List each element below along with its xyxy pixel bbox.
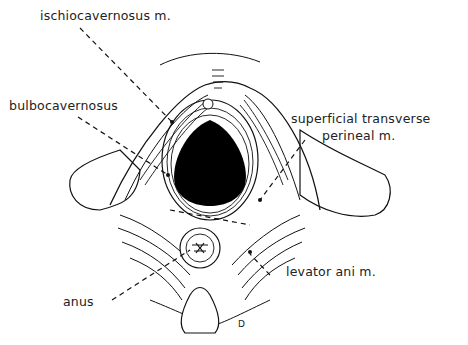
label-levator-ani: levator ani m.	[286, 265, 376, 278]
label-superficial-transverse: superficial transverse	[291, 112, 431, 125]
mons-outline	[160, 53, 260, 65]
label-bulbocavernosus: bulbocavernosus	[9, 99, 118, 112]
vaginal-orifice	[174, 120, 246, 206]
left-ischial-tuberosity	[70, 150, 140, 210]
label-perineal: perineal m.	[322, 129, 395, 142]
label-ischiocavernosus: ischiocavernosus m.	[40, 9, 171, 22]
artist-signature: D	[238, 318, 245, 331]
label-anus: anus	[63, 295, 94, 308]
coccyx	[181, 288, 218, 334]
